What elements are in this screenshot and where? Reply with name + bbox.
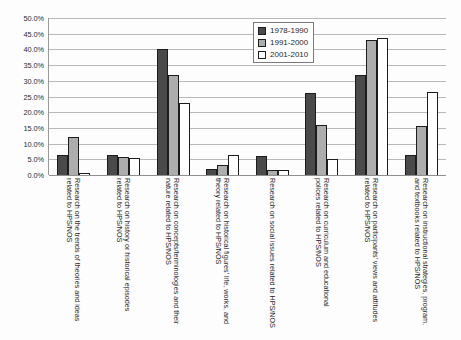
x-category: Research on instructional strategies, pr… (396, 178, 446, 336)
legend-swatch-icon (258, 27, 266, 35)
legend-item[interactable]: 2001-2010 (258, 50, 308, 59)
bar (256, 156, 267, 175)
bar-group (396, 18, 446, 175)
y-tick-label: 15.0% (24, 123, 44, 132)
bar-group (148, 18, 198, 175)
bar (107, 155, 118, 175)
y-tick-label: 45.0% (24, 29, 44, 38)
bar (278, 170, 289, 175)
legend-swatch-icon (258, 51, 266, 59)
x-axis-label: Research on historical figures' life, wo… (214, 178, 231, 330)
bar (416, 126, 427, 175)
bar-group (49, 18, 99, 175)
bar (305, 93, 316, 175)
bar (316, 125, 327, 175)
x-category: Research on concepts/terminologies and t… (148, 178, 198, 336)
y-tick-label: 0.0% (28, 171, 44, 180)
bar (377, 38, 388, 175)
y-tick-label: 50.0% (24, 14, 44, 23)
x-axis-label: Research on social issues related to HPS… (268, 178, 276, 330)
bar (129, 158, 140, 175)
bar (118, 157, 129, 175)
plot-area (48, 18, 446, 175)
x-category: Research on social issues related to HPS… (247, 178, 297, 336)
legend-swatch-icon (258, 39, 266, 47)
x-axis-label: Research on concepts/terminologies and t… (164, 178, 181, 330)
y-tick-label: 20.0% (24, 108, 44, 117)
bar-chart: 50.0%45.0%40.0%35.0%30.0%25.0%20.0%15.0%… (0, 0, 461, 340)
bar (228, 155, 239, 175)
y-axis: 50.0%45.0%40.0%35.0%30.0%25.0%20.0%15.0%… (0, 18, 47, 175)
y-tick-label: 5.0% (28, 155, 44, 164)
bar (179, 103, 190, 175)
bar (157, 49, 168, 175)
x-category: Research on history or historical episod… (98, 178, 148, 336)
legend-label: 1978-1990 (270, 26, 308, 35)
x-category: Research on curriculum and educational p… (297, 178, 347, 336)
y-tick-label: 35.0% (24, 61, 44, 70)
bar (57, 155, 68, 175)
bar-groups (49, 18, 446, 175)
bar-group (347, 18, 397, 175)
legend-item[interactable]: 1991-2000 (258, 38, 308, 47)
bar (79, 173, 90, 175)
bar (168, 75, 179, 175)
bar-group (99, 18, 149, 175)
bar (217, 165, 228, 175)
x-axis-label: Research on participants' views and atti… (363, 178, 380, 330)
bar (68, 137, 79, 175)
y-tick-label: 40.0% (24, 45, 44, 54)
bar (327, 159, 338, 175)
x-axis-label: Research on curriculum and educational p… (313, 178, 330, 330)
legend: 1978-19901991-20002001-2010 (253, 22, 314, 63)
legend-item[interactable]: 1978-1990 (258, 26, 308, 35)
y-tick-label: 10.0% (24, 139, 44, 148)
bar (206, 169, 217, 175)
x-axis: Research on the trends of theories and i… (48, 178, 446, 336)
bar (267, 170, 278, 175)
x-category: Research on the trends of theories and i… (48, 178, 98, 336)
legend-label: 2001-2010 (270, 50, 308, 59)
y-tick-label: 25.0% (24, 92, 44, 101)
x-axis-label: Research on history or historical episod… (114, 178, 131, 330)
x-category: Research on participants' views and atti… (347, 178, 397, 336)
bar (366, 40, 377, 175)
x-axis-label: Research on the trends of theories and i… (64, 178, 81, 330)
y-tick-label: 30.0% (24, 76, 44, 85)
bar-group (198, 18, 248, 175)
bar (427, 92, 438, 175)
bar (405, 155, 416, 175)
x-category: Research on historical figures' life, wo… (197, 178, 247, 336)
legend-label: 1991-2000 (270, 38, 308, 47)
bar (355, 75, 366, 175)
axis-baseline (49, 175, 446, 176)
x-axis-label: Research on instructional strategies, pr… (413, 178, 430, 330)
